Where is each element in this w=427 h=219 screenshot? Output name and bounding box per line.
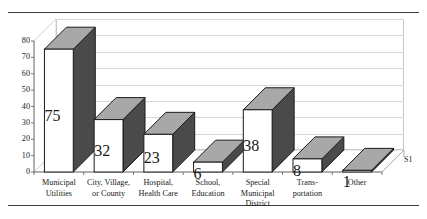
chart-plot-area: 01020304050607080 75322363881 MunicipalU… bbox=[0, 0, 427, 219]
chart-figure: 01020304050607080 75322363881 MunicipalU… bbox=[0, 0, 427, 219]
bar-value-label: 32 bbox=[94, 142, 123, 160]
category-label: School,Education bbox=[183, 178, 233, 199]
category-label-line: Health Care bbox=[133, 189, 183, 200]
category-label: City, Village,or County bbox=[84, 178, 134, 199]
category-label-line: Municipal bbox=[233, 189, 283, 200]
category-label: SpecialMunicipalDistrict bbox=[233, 178, 283, 210]
category-label: Hospital,Health Care bbox=[133, 178, 183, 199]
category-label-line: City, Village, bbox=[84, 178, 134, 189]
category-label: Trans-portation bbox=[283, 178, 333, 199]
bar-column bbox=[94, 98, 145, 172]
category-label-line: Trans- bbox=[283, 178, 333, 189]
category-label-line: Special bbox=[233, 178, 283, 189]
bar-column bbox=[243, 88, 294, 172]
category-label-line: Education bbox=[183, 189, 233, 200]
category-label: Other bbox=[332, 178, 382, 189]
bar-value-label: 75 bbox=[44, 107, 73, 125]
category-label-line: or County bbox=[84, 189, 134, 200]
category-label-line: portation bbox=[283, 189, 333, 200]
bar-value-label: 23 bbox=[144, 149, 173, 167]
category-label-line: Municipal bbox=[34, 178, 84, 189]
series-legend-label: S1 bbox=[404, 156, 412, 164]
bar-front-face bbox=[343, 170, 372, 172]
bar-column bbox=[44, 27, 95, 172]
category-label-line: Other bbox=[332, 178, 382, 189]
bar-column bbox=[343, 148, 394, 172]
category-label-line: Hospital, bbox=[133, 178, 183, 189]
bar-value-label: 38 bbox=[243, 137, 272, 155]
bar-side-face bbox=[73, 27, 95, 172]
bar-top-face bbox=[343, 148, 394, 170]
category-label-line: School, bbox=[183, 178, 233, 189]
category-label-line: Utilities bbox=[34, 189, 84, 200]
category-label: MunicipalUtilities bbox=[34, 178, 84, 199]
category-label-line: District bbox=[233, 199, 283, 210]
